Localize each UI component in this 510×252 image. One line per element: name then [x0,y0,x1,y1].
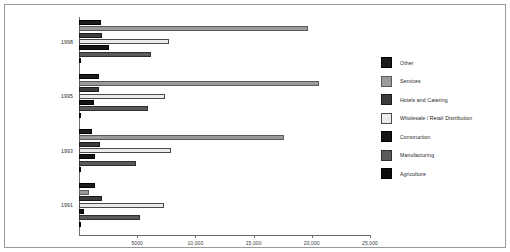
bar [79,39,169,44]
legend-swatch-icon [381,168,392,179]
plot-area: 500010,00015,00020,00025,000 19981995199… [79,17,370,235]
x-tick-label: 25,000 [362,240,378,246]
bar [79,167,81,172]
bar [79,215,140,220]
bar [79,196,102,201]
legend-label: Wholesale / Retail Distribution [400,115,472,121]
bar [79,94,165,99]
legend-swatch-icon [381,131,392,142]
bar [79,100,94,105]
bar [79,58,81,63]
legend-swatch-icon [381,94,392,105]
bar [79,52,151,57]
chart-legend: OtherServicesHotels and CateringWholesal… [381,57,507,189]
bar [79,74,99,79]
chart-frame: 500010,00015,00020,00025,000 19981995199… [4,4,506,248]
x-tick-label: 5000 [131,240,143,246]
legend-item[interactable]: Manufacturing [381,150,434,161]
bar [79,209,84,214]
legend-swatch-icon [381,57,392,68]
y-axis-category-label: 1991 [33,202,73,208]
legend-label: Manufacturing [400,152,434,158]
bar [79,20,101,25]
bar [79,154,95,159]
x-tick-mark [195,235,196,238]
x-tick-mark [254,235,255,238]
bar [79,81,319,86]
x-tick-label: 20,000 [304,240,320,246]
bar [79,113,81,118]
legend-label: Services [400,78,421,84]
legend-label: Agriculture [400,171,426,177]
legend-swatch-icon [381,76,392,87]
legend-item[interactable]: Services [381,76,421,87]
bar [79,129,92,134]
y-axis-category-label: 1995 [33,93,73,99]
bar [79,161,136,166]
legend-label: Construction [400,134,430,140]
x-tick-mark [312,235,313,238]
y-axis-category-label: 1993 [33,148,73,154]
bar [79,148,171,153]
legend-swatch-icon [381,150,392,161]
legend-item[interactable]: Construction [381,131,430,142]
bar [79,26,308,31]
bar [79,135,284,140]
x-tick-mark [370,235,371,238]
legend-item[interactable]: Hotels and Catering [381,94,448,105]
legend-swatch-icon [381,113,392,124]
legend-item[interactable]: Wholesale / Retail Distribution [381,113,472,124]
bar [79,183,95,188]
legend-label: Hotels and Catering [400,97,448,103]
bar-group [79,74,370,119]
bar-group [79,20,370,65]
bar [79,142,100,147]
legend-label: Other [400,60,413,66]
bar [79,87,99,92]
bar [79,45,109,50]
bar [79,190,89,195]
bar [79,203,164,208]
bar-group [79,183,370,228]
bar [79,222,81,227]
x-axis-line [79,235,370,236]
y-axis-category-label: 1998 [33,39,73,45]
bar [79,106,148,111]
bar [79,33,102,38]
legend-item[interactable]: Other [381,57,413,68]
x-tick-label: 15,000 [246,240,262,246]
bar-group [79,129,370,174]
x-tick-label: 10,000 [187,240,203,246]
legend-item[interactable]: Agriculture [381,168,426,179]
x-tick-mark [137,235,138,238]
chart-screenshot: 500010,00015,00020,00025,000 19981995199… [0,0,510,252]
